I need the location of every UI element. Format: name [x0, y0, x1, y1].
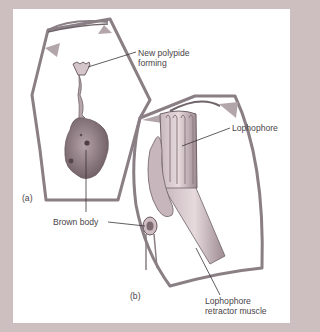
label-line-2: forming: [138, 58, 190, 68]
label-brown-body: Brown body: [53, 217, 98, 227]
label-line-2: retractor muscle: [205, 306, 267, 316]
label-new-polypide-forming: New polypide forming: [138, 48, 190, 68]
label-line-1: New polypide: [138, 48, 190, 58]
new-polypide: [73, 62, 90, 118]
label-lophophore-retractor-muscle: Lophophore retractor muscle: [205, 296, 267, 316]
brown-body-a: [65, 118, 108, 179]
lophophore: [160, 111, 197, 191]
panel-label-b: (b): [130, 291, 141, 301]
retractor-muscle: [164, 188, 225, 264]
label-line-1: Lophophore: [205, 296, 267, 306]
label-lophophore: Lophophore: [232, 123, 278, 133]
panel-label-a: (a): [22, 193, 33, 203]
